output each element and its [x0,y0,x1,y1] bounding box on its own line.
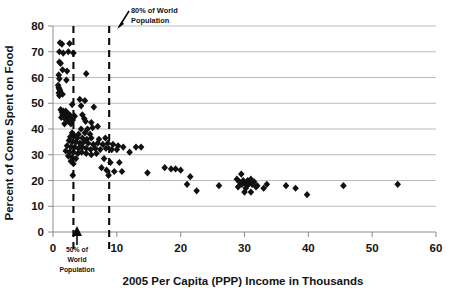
data-point [238,170,245,177]
data-point [216,182,223,189]
data-point [248,188,255,195]
data-point [89,124,96,131]
y-tick-label-60: 60 [31,72,44,84]
x-axis-title: 2005 Per Capita (PPP) Income in Thousand… [123,275,364,287]
data-point [88,151,95,158]
annotation-50-percent-line1: 50% of [66,246,89,253]
y-tick-label-10: 10 [31,200,44,212]
data-point [138,143,145,150]
x-tick-label-10: 10 [110,242,123,254]
data-point [66,40,73,47]
data-point [101,155,108,162]
data-point [394,181,401,188]
data-point [172,165,179,172]
data-point [88,119,95,126]
data-point [77,96,84,103]
data-point [65,48,72,55]
x-tick-label-30: 30 [238,242,251,254]
annotation-80-percent: 80% of World Population [117,6,178,29]
y-tick-label-40: 40 [31,123,44,135]
annotation-50-percent: 50% of World Population [59,226,94,274]
annotation-80-percent-arrowhead [117,21,124,29]
y-tick-label-80: 80 [31,20,44,32]
x-tick-label-60: 60 [430,242,443,254]
data-point [283,182,290,189]
data-point [91,104,98,111]
data-point [144,169,151,176]
data-point [110,141,117,148]
data-points-group [55,39,401,198]
x-tick-label-50: 50 [366,242,379,254]
y-tickmarks-group [48,26,53,232]
data-point [119,168,126,175]
x-tick-label-40: 40 [302,242,315,254]
scatter-chart: 0102030405060 01020304050607080 2005 Per… [0,0,454,297]
x-tick-label-20: 20 [174,242,187,254]
y-tick-label-20: 20 [31,175,44,187]
data-point [116,159,123,166]
data-point [304,191,311,198]
y-tick-label-0: 0 [38,226,44,238]
x-tick-label-0: 0 [50,242,56,254]
y-tick-label-50: 50 [31,97,44,109]
data-point [340,182,347,189]
annotation-80-percent-line1: 80% of World [131,6,178,15]
data-point [161,164,168,171]
data-point [292,185,299,192]
annotation-80-percent-line2: Population [131,16,170,25]
data-point [83,70,90,77]
data-point [120,143,127,150]
y-axis-title: Percent of Come Spent on Food [3,45,15,220]
data-point [177,167,184,174]
x-tickmarks-group [53,232,436,237]
annotation-50-percent-line3: Population [59,266,94,274]
data-point [187,173,194,180]
y-tick-labels-group: 01020304050607080 [31,20,44,238]
chart-svg: 0102030405060 01020304050607080 2005 Per… [0,0,454,297]
data-point [111,168,118,175]
annotation-50-percent-line2: World [67,256,86,263]
y-tick-label-30: 30 [31,149,44,161]
y-tick-label-70: 70 [31,46,44,58]
data-point [184,181,191,188]
data-point [193,187,200,194]
